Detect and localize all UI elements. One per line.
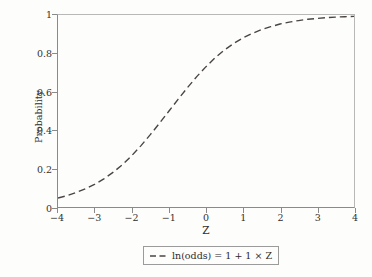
x-axis-tick-mark — [281, 208, 282, 213]
x-axis-tick-label: 4 — [340, 212, 370, 223]
x-axis-tick-mark — [132, 208, 133, 213]
x-axis-tick-mark — [243, 208, 244, 213]
logistic-curve-path — [58, 16, 354, 198]
x-axis-tick-mark — [169, 208, 170, 213]
x-axis-tick-label: −2 — [117, 212, 147, 223]
y-axis-tick-label: 0.4 — [12, 125, 52, 136]
x-axis-tick-mark — [206, 208, 207, 213]
x-axis-tick-label: 2 — [266, 212, 296, 223]
x-axis-tick-label: 1 — [228, 212, 258, 223]
x-axis-tick-mark — [355, 208, 356, 213]
x-axis-tick-label: −4 — [42, 212, 72, 223]
y-axis-tick-label: 0.8 — [12, 47, 52, 58]
legend-entry-label: ln(odds) = 1 + 1 × Z — [172, 251, 272, 261]
legend-box: ln(odds) = 1 + 1 × Z — [143, 246, 279, 265]
x-axis-title: Z — [57, 224, 355, 236]
chart-figure: Probability 00.20.40.60.81 −4−3−2−101234… — [0, 0, 372, 277]
y-axis-tick-label: 0.2 — [12, 164, 52, 175]
x-axis-tick-mark — [318, 208, 319, 213]
dashed-line-swatch-icon — [150, 252, 167, 260]
y-axis-tick-label: 0.6 — [12, 86, 52, 97]
x-axis-tick-label: 3 — [303, 212, 333, 223]
x-axis-tick-label: −3 — [79, 212, 109, 223]
x-axis-tick-label: 0 — [191, 212, 221, 223]
data-curve — [58, 15, 354, 207]
y-axis-tick-label: 1 — [12, 9, 52, 20]
x-axis-tick-label: −1 — [154, 212, 184, 223]
y-axis-title: Probability — [33, 57, 44, 177]
x-axis-tick-mark — [57, 208, 58, 213]
plot-area — [57, 14, 355, 208]
x-axis-tick-mark — [94, 208, 95, 213]
